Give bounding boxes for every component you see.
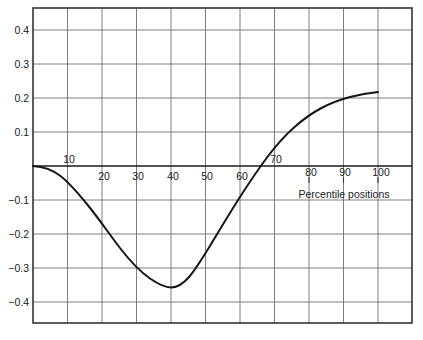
x-tick-label-80: 80 <box>305 166 317 178</box>
x-axis-title: Percentile positions <box>298 188 389 200</box>
y-tick-label-7: −0.4 <box>8 296 29 308</box>
x-tick-label-100: 100 <box>372 166 390 178</box>
x-tick-label-70: 70 <box>270 153 282 165</box>
y-tick-label-6: −0.3 <box>8 262 29 274</box>
y-tick-label-4: −0.1 <box>8 194 29 206</box>
chart-figure: 0.4 0.3 0.2 0.1 −0.1 −0.2 −0.3 −0.4 10 7… <box>0 0 423 340</box>
y-tick-label-2: 0.2 <box>14 92 29 104</box>
x-tick-label-30: 30 <box>132 170 144 182</box>
x-tick-label-60: 60 <box>236 170 248 182</box>
x-tick-label-20: 20 <box>98 170 110 182</box>
line-chart: 0.4 0.3 0.2 0.1 −0.1 −0.2 −0.3 −0.4 10 7… <box>0 0 423 340</box>
y-tick-label-0: 0.4 <box>14 24 29 36</box>
x-tick-label-40: 40 <box>167 170 179 182</box>
x-tick-label-10: 10 <box>63 153 75 165</box>
y-tick-label-1: 0.3 <box>14 58 29 70</box>
y-tick-label-3: 0.1 <box>14 126 29 138</box>
y-axis-labels: 0.4 0.3 0.2 0.1 −0.1 −0.2 −0.3 −0.4 <box>8 24 29 308</box>
x-tick-label-90: 90 <box>339 166 351 178</box>
y-tick-label-5: −0.2 <box>8 228 29 240</box>
x-tick-label-50: 50 <box>201 170 213 182</box>
